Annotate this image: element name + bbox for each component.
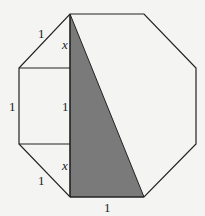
label-middle-one: 1 [62, 99, 69, 114]
shaded-triangle [70, 14, 144, 197]
label-left-edge: 1 [9, 99, 16, 114]
octagon-diagram: 1 x 1 1 x 1 1 [0, 0, 205, 216]
label-bottom-left-edge: 1 [38, 173, 45, 188]
label-top-left-edge: 1 [38, 26, 45, 41]
label-bottom-edge: 1 [104, 200, 111, 215]
label-upper-x: x [61, 37, 68, 52]
diagram-canvas: 1 x 1 1 x 1 1 [0, 0, 205, 216]
label-lower-x: x [61, 158, 68, 173]
